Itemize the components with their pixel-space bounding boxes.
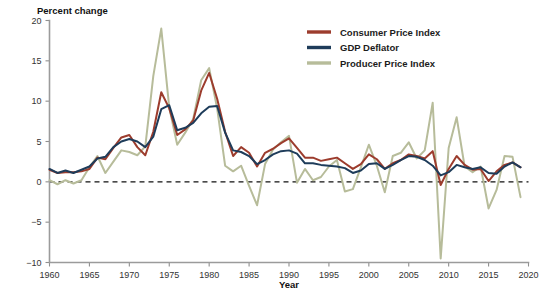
- x-tick-label: 2015: [479, 270, 499, 280]
- series-lines: [50, 29, 521, 259]
- x-axis-ticks: 1960196519701975198019851990199520002005…: [39, 263, 538, 280]
- y-axis-title: Percent change: [37, 5, 108, 16]
- x-tick-label: 1990: [279, 270, 299, 280]
- x-tick-label: 1960: [39, 270, 59, 280]
- y-tick-label: 20: [31, 16, 41, 26]
- legend-label-producer-price-index: Producer Price Index: [340, 58, 436, 69]
- x-tick-label: 2005: [399, 270, 419, 280]
- x-tick-label: 2010: [439, 270, 459, 280]
- x-tick-label: 1980: [199, 270, 219, 280]
- x-axis-title: Year: [279, 279, 299, 290]
- legend-label-gdp-deflator: GDP Deflator: [340, 42, 399, 53]
- x-tick-label: 2000: [359, 270, 379, 280]
- series-line-consumer-price-index: [50, 73, 521, 185]
- y-tick-label: 15: [31, 56, 41, 66]
- chart-canvas: Percent change −10−505101520 19601965197…: [0, 0, 557, 296]
- x-tick-label: 1970: [119, 270, 139, 280]
- x-tick-label: 1985: [239, 270, 259, 280]
- y-tick-label: −10: [26, 258, 41, 268]
- x-axis-title-group: Year: [279, 279, 299, 290]
- chart-legend: Consumer Price IndexGDP DeflatorProducer…: [307, 27, 441, 69]
- y-tick-label: 10: [31, 96, 41, 106]
- x-tick-label: 1995: [319, 270, 339, 280]
- y-axis-ticks: −10−505101520: [26, 16, 49, 268]
- x-tick-label: 1975: [159, 270, 179, 280]
- y-tick-label: 0: [36, 177, 41, 187]
- y-tick-label: −5: [31, 217, 41, 227]
- y-axis-title-group: Percent change: [37, 5, 108, 16]
- y-tick-label: 5: [36, 137, 41, 147]
- legend-label-consumer-price-index: Consumer Price Index: [340, 27, 441, 38]
- inflation-measures-chart: Percent change −10−505101520 19601965197…: [0, 0, 557, 296]
- x-tick-label: 2020: [518, 270, 538, 280]
- x-tick-label: 1965: [79, 270, 99, 280]
